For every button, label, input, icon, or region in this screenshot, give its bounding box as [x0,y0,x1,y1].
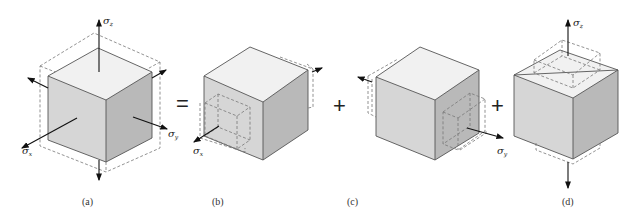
panel-b: σx (b) [193,47,322,208]
cube-a [48,48,152,162]
plus-sign-2: + [491,93,504,118]
caption-d: (d) [562,196,574,208]
cube-c [376,47,479,160]
cube-d [514,50,618,159]
sigma-y-label-c: σy [497,145,508,158]
panel-c: σy (c) [347,47,508,208]
panel-a: σz σx σy (a) [22,15,179,208]
caption-b: (b) [212,196,224,208]
caption-c: (c) [347,196,358,208]
sigma-y-neg-arrow-c [358,77,372,82]
caption-a: (a) [82,196,93,208]
plus-sign-1: + [333,93,346,118]
sigma-x-neg-arrow-b [312,68,322,72]
sigma-z-label: σz [103,15,114,27]
sigma-x-neg-arrow [28,78,48,88]
sigma-x-label-b: σx [193,145,204,157]
equals-sign: = [176,91,189,116]
sigma-z-label-d: σz [573,17,584,29]
stress-decomposition-diagram: σz σx σy (a) = σx (b) + [0,0,643,217]
sigma-y-neg-arrow [152,70,166,78]
panel-d: σz (d) [514,17,618,208]
sigma-y-label: σy [168,128,179,141]
cube-b [204,47,308,160]
sigma-x-label: σx [22,145,33,157]
